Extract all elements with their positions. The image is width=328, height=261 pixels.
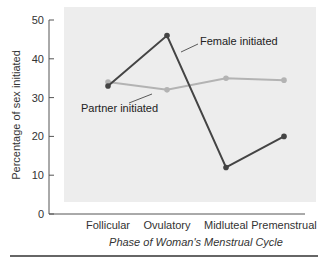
line-chart: 01020304050 FollicularOvulatoryMidluteal… bbox=[0, 0, 328, 261]
partner-initiated-label: Partner initiated bbox=[81, 102, 158, 114]
data-point bbox=[164, 33, 170, 39]
x-axis-title: Phase of Woman's Menstrual Cycle bbox=[109, 236, 283, 248]
data-point bbox=[223, 165, 229, 171]
data-point bbox=[105, 83, 111, 89]
x-axis: FollicularOvulatoryMidlutealPremenstrual bbox=[49, 214, 317, 231]
y-axis: 01020304050 bbox=[32, 14, 54, 220]
data-point bbox=[281, 134, 287, 140]
data-point bbox=[223, 75, 229, 81]
y-tick-label: 10 bbox=[32, 169, 44, 181]
x-category-label: Premenstrual bbox=[251, 219, 316, 231]
y-tick-label: 20 bbox=[32, 130, 44, 142]
x-category-label: Follicular bbox=[86, 219, 130, 231]
y-tick-label: 0 bbox=[38, 208, 44, 220]
female-initiated-label: Female initiated bbox=[200, 35, 278, 47]
y-tick-label: 40 bbox=[32, 53, 44, 65]
y-tick-label: 30 bbox=[32, 92, 44, 104]
data-point bbox=[281, 77, 287, 83]
y-axis-title: Percentage of sex initiated bbox=[10, 50, 22, 180]
y-tick-label: 50 bbox=[32, 14, 44, 26]
data-point bbox=[164, 87, 170, 93]
x-category-label: Midluteal bbox=[204, 219, 248, 231]
bottom-rule bbox=[10, 255, 318, 257]
x-category-label: Ovulatory bbox=[143, 219, 191, 231]
